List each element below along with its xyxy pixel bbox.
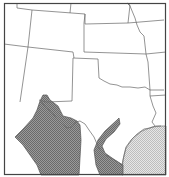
range-map	[0, 0, 169, 177]
gulf-area	[122, 126, 166, 175]
range-west	[15, 95, 81, 175]
